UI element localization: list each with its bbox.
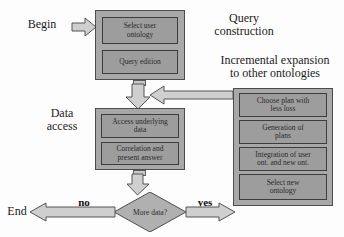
step-query-edition[interactable]: Query edition [102,50,178,74]
expansion-to-data-left-arrow [150,86,234,105]
decision-more-data[interactable]: More data? [114,192,186,232]
end-label: End [2,205,32,218]
query-to-data-down-arrow [126,84,152,110]
decision-label: More data? [114,192,186,232]
step-integration-of-ontologies[interactable]: Integration of user ont. and new ont. [239,147,327,171]
stage-label-incremental-expansion: Incremental expansion to other ontologie… [208,54,342,80]
stage-label-data-access: Data access [36,107,88,133]
step-generation-of-plans[interactable]: Generation of plans [239,120,327,144]
flowchart-canvas: Begin Select user ontology Query edition… [0,0,344,237]
step-select-new-ontology[interactable]: Select new ontology [239,174,327,200]
step-select-user-ontology[interactable]: Select user ontology [102,17,178,44]
step-access-underlying-data[interactable]: Access underlying data [101,114,179,138]
step-correlation-present-answer[interactable]: Correlation and present answer [101,142,179,165]
decision-to-end-left-arrow [30,203,116,222]
begin-label: Begin [16,18,68,31]
step-choose-plan-less-loss[interactable]: Choose plan with less loss [239,93,327,117]
decision-to-expansion-right-arrow [186,203,236,222]
stage-label-query-construction: Query construction [196,12,292,38]
